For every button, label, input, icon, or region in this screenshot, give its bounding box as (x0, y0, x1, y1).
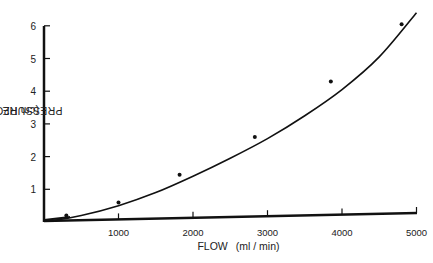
data-point (178, 173, 182, 177)
x-tick-label: 2000 (182, 227, 203, 238)
y-tick-label: 3 (30, 119, 36, 130)
x-axis-units: (ml / min) (236, 240, 280, 252)
data-point (64, 214, 68, 218)
y-axis-label: PRESSURE DROP (cm H2O) (2, 0, 28, 222)
x-tick-label: 5000 (406, 227, 427, 238)
y-axis: 123456 (30, 21, 50, 222)
data-points (64, 22, 403, 217)
x-axis-label: FLOW(ml / min) (0, 240, 433, 252)
data-point (253, 135, 257, 139)
x-tick-label: 3000 (257, 227, 278, 238)
x-tick-label: 1000 (108, 227, 129, 238)
y-tick-label: 4 (30, 86, 36, 97)
y-tick-label: 2 (30, 152, 36, 163)
data-point (117, 201, 121, 205)
data-point (329, 80, 333, 84)
pressure-flow-chart: 123456 10002000300040005000 (0, 0, 433, 263)
y-tick-label: 5 (30, 54, 36, 65)
fitted-curve (44, 13, 417, 221)
x-axis: 10002000300040005000 (44, 207, 427, 238)
y-tick-label: 1 (30, 184, 36, 195)
data-point (400, 22, 404, 26)
y-axis-units: (cm H2O) (0, 105, 39, 117)
x-tick-label: 4000 (331, 227, 352, 238)
y-tick-label: 6 (30, 21, 36, 32)
